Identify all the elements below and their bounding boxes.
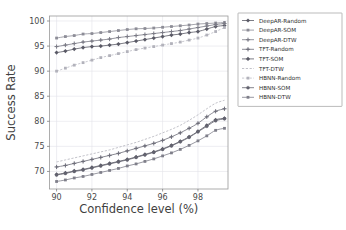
- legend-label: DeepAR-Random: [259, 18, 306, 25]
- svg-text:98: 98: [193, 193, 203, 202]
- svg-text:90: 90: [51, 193, 61, 202]
- legend-label: TFT-Random: [258, 46, 294, 52]
- success-rate-line-chart: 9092949698 707580859095100 Confidence le…: [0, 0, 346, 230]
- legend-label: TFT-SOM: [258, 56, 283, 62]
- svg-text:96: 96: [158, 193, 168, 202]
- y-axis-label: Success Rate: [4, 64, 18, 140]
- svg-text:80: 80: [34, 117, 44, 126]
- svg-text:75: 75: [34, 142, 44, 151]
- svg-text:100: 100: [29, 17, 44, 26]
- svg-text:95: 95: [34, 42, 44, 51]
- legend-label: TFT-DTW: [258, 66, 284, 72]
- x-axis-label: Confidence level (%): [79, 202, 198, 216]
- legend-label: HBNN-DTW: [259, 94, 291, 100]
- chart-figure: 9092949698 707580859095100 Confidence le…: [0, 0, 346, 230]
- svg-text:94: 94: [122, 193, 132, 202]
- legend-label: DeepAR-SOM: [259, 27, 296, 34]
- svg-text:90: 90: [34, 67, 44, 76]
- svg-text:92: 92: [87, 193, 97, 202]
- legend-label: DeepAR-DTW: [259, 37, 297, 44]
- svg-text:70: 70: [34, 167, 44, 176]
- legend-label: HBNN-SOM: [259, 85, 290, 91]
- svg-text:85: 85: [34, 92, 44, 101]
- legend-label: HBNN-Random: [259, 75, 301, 81]
- chart-legend[interactable]: DeepAR-RandomDeepAR-SOMDeepAR-DTWTFT-Ran…: [238, 13, 342, 106]
